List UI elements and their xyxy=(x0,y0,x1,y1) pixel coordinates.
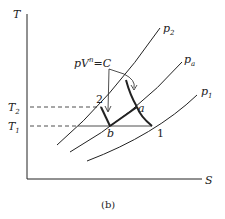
isobar-p2-label: p2 xyxy=(163,22,175,37)
process-single-stage xyxy=(126,80,137,107)
isobar-p1-label: p1 xyxy=(201,85,213,100)
point-1-label: 1 xyxy=(157,127,164,140)
t1-label: T1 xyxy=(8,120,20,135)
ts-diagram: T S p2 pa p1 T2 T1 pVn=C 2 b a 1 (b) xyxy=(0,0,225,219)
polytropic-label: pVn=C xyxy=(74,56,112,70)
annotation-arrow-left xyxy=(108,69,109,111)
t2-label: T2 xyxy=(8,101,20,116)
x-axis-label: S xyxy=(205,174,213,187)
caption: (b) xyxy=(101,199,115,210)
isobar-pa-label: pa xyxy=(184,53,195,68)
process-b-to-a xyxy=(110,107,137,126)
point-2-label: 2 xyxy=(96,93,103,106)
y-axis-label: T xyxy=(13,8,22,21)
point-b-label: b xyxy=(107,127,114,140)
point-a-label: a xyxy=(138,102,145,115)
